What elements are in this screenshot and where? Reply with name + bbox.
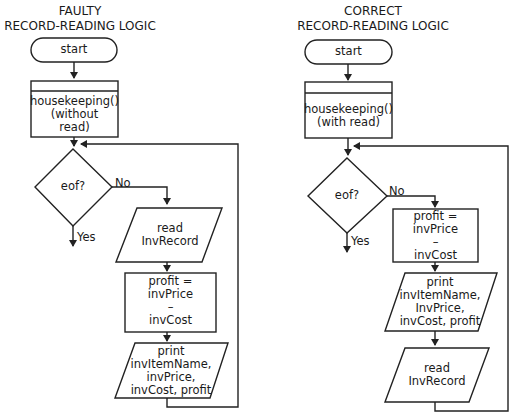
faulty-read-label: read InvRecord [122,222,218,248]
correct-profit-label: profit = invPrice – invCost [393,210,478,262]
faulty-print-label: print invItemName, invPrice, invCost, pr… [117,345,225,397]
correct-housekeeping-label: housekeeping() (with read) [303,103,394,129]
title-line: CORRECT [283,4,463,19]
title-line: RECORD-READING LOGIC [283,19,463,34]
correct-decision-label: eof? [317,189,377,202]
title-line: FAULTY [0,4,160,19]
faulty-yes-label: Yes [77,231,96,244]
correct-read-label: read InvRecord [389,362,485,388]
correct-yes-label: Yes [351,235,370,248]
correct-start-label: start [305,45,392,58]
correct-no-label: No [389,185,405,198]
faulty-housekeeping-label: housekeeping() (without read) [29,95,120,134]
faulty-no-label: No [115,177,131,190]
correct-print-label: print invItemName, InvPrice, invCost, pr… [386,276,494,328]
faulty-decision-label: eof? [43,180,103,193]
title-line: RECORD-READING LOGIC [0,19,160,34]
faulty-start-label: start [31,43,117,56]
faulty-title: FAULTY RECORD-READING LOGIC [0,4,160,34]
faulty-profit-label: profit = invPrice – invCost [125,275,216,327]
correct-title: CORRECT RECORD-READING LOGIC [283,4,463,34]
